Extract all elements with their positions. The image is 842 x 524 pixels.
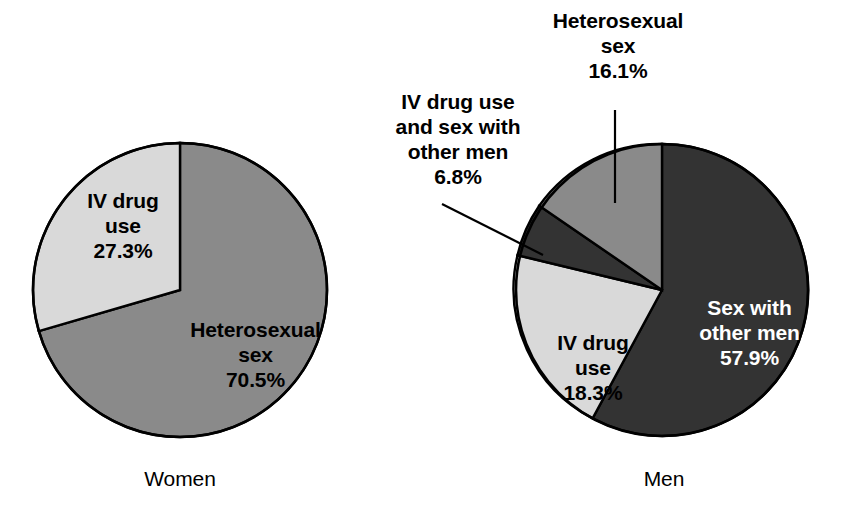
men-label-heterosexual-sex: Heterosexual sex 16.1% [508,8,728,83]
women-label-heterosexual-sex: Heterosexual sex 70.5% [168,317,343,392]
women-chart-caption: Women [105,466,255,491]
pie-chart-figure: IV drug use 27.3% Heterosexual sex 70.5%… [0,0,842,524]
men-label-iv-drug-and-sex-other-men: IV drug use and sex with other men 6.8% [358,89,558,189]
women-label-iv-drug-use: IV drug use 27.3% [48,188,198,263]
men-label-sex-with-other-men: Sex with other men 57.9% [672,295,827,370]
men-label-iv-drug-use: IV drug use 18.3% [528,330,658,405]
men-chart-caption: Men [604,466,724,491]
